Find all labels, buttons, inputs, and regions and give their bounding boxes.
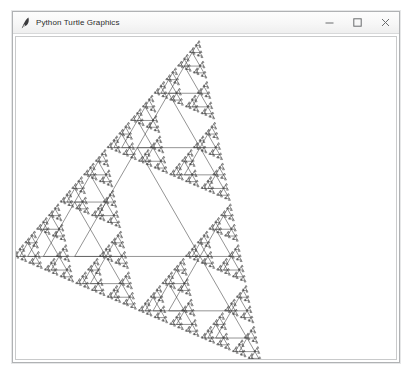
maximize-icon (352, 17, 363, 28)
close-button[interactable] (371, 12, 399, 33)
window-controls (315, 12, 399, 33)
window-title: Python Turtle Graphics (36, 19, 315, 27)
turtle-graphics-window: Python Turtle Graphics (12, 11, 400, 363)
maximize-button[interactable] (343, 12, 371, 33)
turtle-canvas-area[interactable] (15, 36, 397, 360)
python-feather-icon (18, 16, 32, 30)
screenshot-root: Python Turtle Graphics (0, 0, 413, 376)
window-titlebar[interactable]: Python Turtle Graphics (13, 12, 399, 34)
fractal-drawing (16, 37, 396, 359)
minimize-icon (324, 17, 335, 28)
minimize-button[interactable] (315, 12, 343, 33)
close-icon (380, 17, 391, 28)
fractal-path (16, 41, 262, 359)
